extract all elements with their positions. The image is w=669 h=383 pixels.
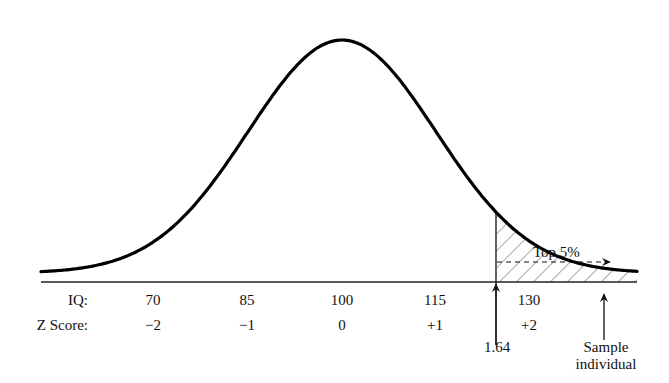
z-tick-plus-2: +2 bbox=[521, 316, 537, 334]
z-score-row-label: Z Score: bbox=[37, 316, 88, 334]
z-tick-minus-2: −2 bbox=[145, 316, 161, 334]
iq-tick-70: 70 bbox=[146, 291, 161, 309]
top-5-percent-label: Top 5% bbox=[533, 243, 580, 261]
iq-tick-130: 130 bbox=[518, 291, 541, 309]
iq-tick-115: 115 bbox=[424, 291, 446, 309]
iq-tick-85: 85 bbox=[240, 291, 255, 309]
z-tick-0: 0 bbox=[338, 316, 346, 334]
iq-tick-100: 100 bbox=[331, 291, 354, 309]
iq-row-label: IQ: bbox=[68, 291, 88, 309]
sample-individual-label-line2: individual bbox=[576, 355, 637, 373]
z-tick-plus-1: +1 bbox=[427, 316, 443, 334]
cutoff-label: 1.64 bbox=[484, 338, 510, 356]
normal-curve bbox=[41, 40, 637, 272]
normal-distribution-chart bbox=[0, 0, 669, 383]
z-tick-minus-1: −1 bbox=[239, 316, 255, 334]
sample-individual-label-line1: Sample bbox=[584, 338, 629, 356]
